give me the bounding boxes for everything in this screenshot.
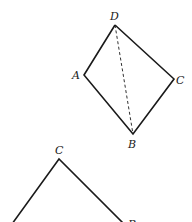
angle-figure-bottom: C B [12, 144, 136, 222]
label-c-bottom: C [55, 144, 64, 157]
edges-bottom [12, 159, 124, 222]
label-b-top: B [127, 138, 136, 151]
label-d: D [109, 10, 119, 23]
label-a: A [71, 69, 80, 82]
label-b-bottom: B [127, 218, 136, 222]
diagonal-db-dashed [115, 25, 133, 134]
geometry-diagram: D A C B C B [0, 0, 192, 222]
quadrilateral-abcd: D A C B [71, 10, 185, 151]
label-c-top: C [176, 74, 185, 87]
edge-d-a-b-c-d [84, 25, 174, 134]
